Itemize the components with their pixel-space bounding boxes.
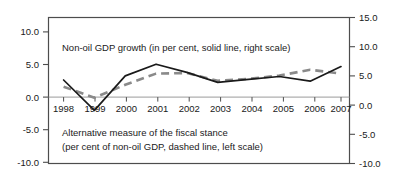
- left-tick-label-0: 0.0: [26, 92, 39, 103]
- chart-svg: 10.0 5.0 0.0 -5.0 -10.0 15.0 10.0 5.0 0.…: [0, 0, 395, 188]
- chart-figure: 10.0 5.0 0.0 -5.0 -10.0 15.0 10.0 5.0 0.…: [0, 0, 395, 188]
- right-tick-label-5: 5.0: [359, 70, 372, 81]
- left-tick-label-10: 10.0: [21, 26, 40, 37]
- chart-background: [0, 0, 395, 188]
- year-label-2006: 2006: [304, 103, 325, 114]
- year-label-2003: 2003: [210, 103, 231, 114]
- year-label-2002: 2002: [179, 103, 200, 114]
- year-label-2005: 2005: [273, 103, 294, 114]
- right-tick-label-0: 0.0: [359, 100, 372, 111]
- left-tick-label-neg10: -10.0: [17, 157, 39, 168]
- year-label-2000: 2000: [116, 103, 137, 114]
- dashed-series-annotation-line1: Alternative measure of the fiscal stance: [62, 127, 228, 138]
- year-label-2001: 2001: [147, 103, 168, 114]
- right-tick-label-15: 15.0: [359, 12, 378, 23]
- year-label-1998: 1998: [53, 103, 74, 114]
- year-label-2004: 2004: [241, 103, 262, 114]
- left-tick-label-5: 5.0: [26, 59, 39, 70]
- left-tick-label-neg5: -5.0: [23, 124, 39, 135]
- right-tick-label-neg10: -10.0: [359, 158, 381, 169]
- year-label-2007: 2007: [330, 103, 351, 114]
- dashed-series-annotation-line2: (per cent of non-oil GDP, dashed line, l…: [62, 141, 263, 152]
- right-tick-label-10: 10.0: [359, 41, 378, 52]
- right-tick-label-neg5: -5.0: [359, 129, 375, 140]
- solid-series-annotation: Non-oil GDP growth (in per cent, solid l…: [62, 42, 290, 53]
